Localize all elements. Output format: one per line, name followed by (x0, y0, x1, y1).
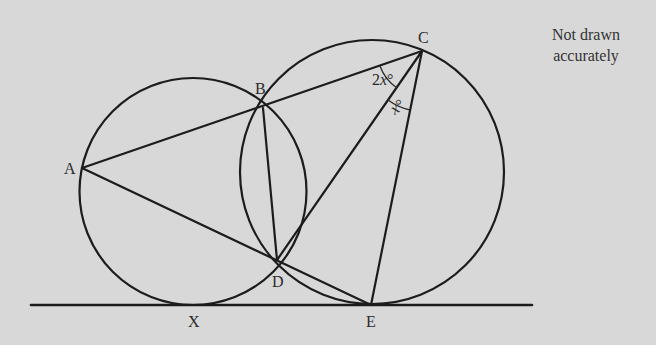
note-line-2: accurately (536, 45, 636, 66)
segment-BD (263, 108, 277, 260)
point-label-B: B (255, 80, 266, 97)
point-label-X: X (188, 313, 200, 330)
not-drawn-accurately-note: Not drawn accurately (536, 24, 636, 66)
point-label-C: C (418, 29, 429, 46)
circle-ABDX (80, 78, 307, 305)
segment-AC (82, 51, 422, 168)
point-label-D: D (272, 273, 284, 290)
angle-label-2x: 2x° (372, 71, 394, 88)
diagram-canvas: 2x° x° A B C D E X Not drawn accurately (0, 0, 656, 345)
note-line-1: Not drawn (536, 24, 636, 45)
point-label-A: A (64, 160, 76, 177)
point-label-E: E (366, 313, 376, 330)
